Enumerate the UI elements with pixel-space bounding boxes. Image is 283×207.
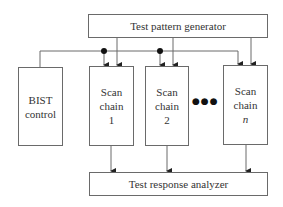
test-pattern-generator-label: Test pattern generator — [130, 19, 226, 33]
scan-chain-2-line2: chain — [155, 99, 179, 113]
scan-chain-n-line2: chain — [234, 98, 258, 112]
bist-control-box: BIST control — [18, 67, 63, 146]
ellipsis-dots: ●●● — [192, 96, 222, 106]
junction-dot — [101, 48, 107, 54]
test-response-analyzer-label: Test response analyzer — [129, 177, 228, 191]
test-response-analyzer-box: Test response analyzer — [89, 172, 268, 196]
test-pattern-generator-box: Test pattern generator — [88, 14, 268, 38]
bist-control-line1: BIST — [25, 93, 56, 107]
scan-chain-1-line1: Scan — [100, 85, 124, 99]
scan-chain-1-line2: chain — [100, 99, 124, 113]
scan-chain-1-line3: 1 — [100, 113, 124, 127]
scan-chain-n-line1: Scan — [234, 84, 258, 98]
junction-dot — [157, 48, 163, 54]
scan-chain-n-line3: n — [234, 112, 258, 126]
scan-chain-2-box: Scan chain 2 — [145, 66, 189, 146]
scan-chain-2-line3: 2 — [155, 113, 179, 127]
scan-chain-2-line1: Scan — [155, 85, 179, 99]
scan-chain-n-box: Scan chain n — [223, 65, 268, 145]
bist-control-line2: control — [25, 107, 56, 121]
scan-chain-1-box: Scan chain 1 — [89, 66, 134, 146]
